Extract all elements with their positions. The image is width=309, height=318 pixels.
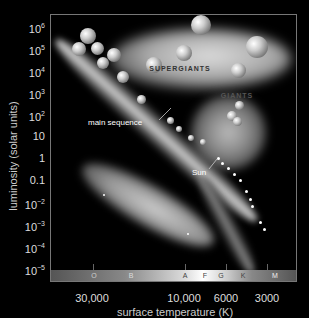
- y-tick-10: 10: [33, 131, 45, 142]
- spectral-class-bar: O B A F G K M: [51, 270, 296, 281]
- y-tick-1e-2: 10−2: [25, 196, 45, 211]
- y-tick-1e5: 105: [29, 42, 45, 57]
- x-tick-30000: 30,000: [75, 292, 109, 304]
- x-tick-6000: 6000: [214, 292, 238, 304]
- plot-area: SUPERGIANTS GIANTS main sequence Sun O B…: [50, 14, 297, 282]
- y-tick-1e4: 104: [29, 64, 45, 79]
- x-tick-10000: 10,000: [167, 292, 201, 304]
- y-tick-1e-5: 10−5: [25, 262, 45, 277]
- spectral-class-o: O: [91, 270, 96, 281]
- y-tick-1e6: 106: [29, 20, 45, 35]
- y-tick-1e3: 103: [29, 86, 45, 101]
- y-tick-1: 1: [39, 153, 45, 164]
- giants-label: GIANTS: [221, 92, 253, 99]
- x-axis-label: surface temperature (K): [117, 306, 233, 318]
- spectral-class-g: G: [218, 270, 223, 281]
- spectral-class-b: B: [129, 270, 134, 281]
- y-tick-0-1: 0.1: [30, 175, 45, 186]
- spectral-class-k: K: [241, 270, 246, 281]
- spectral-class-m: M: [272, 270, 278, 281]
- y-tick-1e-4: 10−4: [25, 240, 45, 255]
- y-tick-1e-3: 10−3: [25, 218, 45, 233]
- spectral-class-a: A: [183, 270, 188, 281]
- annotation-lines: [51, 15, 297, 282]
- main-sequence-label: main sequence: [88, 118, 142, 127]
- y-axis-label: luminosity (solar units): [7, 91, 19, 221]
- x-tick-3000: 3000: [255, 292, 279, 304]
- spectral-class-f: F: [203, 270, 207, 281]
- sun-label: Sun: [192, 168, 206, 177]
- supergiants-label: SUPERGIANTS: [149, 65, 211, 72]
- y-tick-1e2: 102: [29, 108, 45, 123]
